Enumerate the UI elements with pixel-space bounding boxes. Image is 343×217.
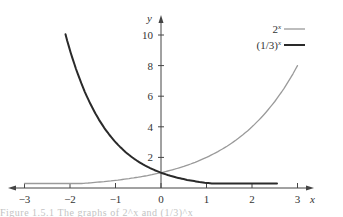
x-axis-left-arrow-icon (8, 186, 16, 191)
legend: 2x(1/3)x (257, 23, 306, 52)
y-axis-arrow-icon (159, 15, 164, 23)
y-tick-label: 2 (148, 151, 154, 163)
y-tick-label: 10 (142, 29, 154, 41)
y-axis-label: y (146, 12, 152, 24)
curve-one-third-pow-x (66, 34, 278, 183)
x-tick-label: −2 (64, 193, 76, 205)
y-tick-label: 4 (148, 121, 154, 133)
exponential-chart: −3−2−10123x246810y 2x(1/3)x (0, 0, 343, 217)
x-tick-label: −3 (19, 193, 31, 205)
legend-label: 2x (272, 23, 282, 35)
legend-label: (1/3)x (257, 39, 282, 52)
x-tick-label: −1 (110, 193, 122, 205)
x-tick-label: 1 (204, 193, 210, 205)
x-tick-label: 0 (158, 193, 164, 205)
x-axis-right-arrow-icon (306, 186, 314, 191)
y-tick-label: 8 (148, 60, 154, 72)
x-tick-label: 2 (249, 193, 255, 205)
x-tick-label: 3 (295, 193, 301, 205)
figure-caption: Figure 1.5.1 The graphs of 2^x and (1/3)… (0, 208, 343, 217)
x-axis-label: x (309, 193, 315, 205)
y-tick-label: 6 (148, 90, 154, 102)
